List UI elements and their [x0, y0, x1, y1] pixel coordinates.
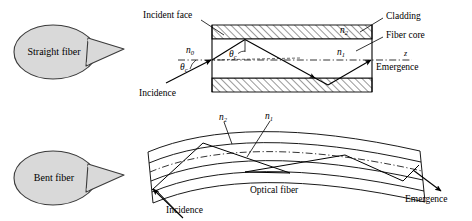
label-theta-critical: θc: [229, 50, 237, 60]
label-n2-cladding: n2: [340, 26, 348, 36]
label-theta-incidence-subscript: c: [185, 66, 188, 73]
label-n0-subscript: 0: [191, 49, 194, 56]
label-theta-incidence: θc: [180, 63, 188, 73]
label-optical-fiber: Optical fiber: [250, 186, 298, 196]
optical-fiber-diagram: Straight fiber Bent fiber Incident face …: [0, 0, 472, 221]
label-axis-z: z: [404, 50, 407, 58]
label-theta-critical-subscript: c: [234, 53, 237, 60]
label-n2-bent: n2: [219, 113, 227, 123]
label-cladding: Cladding: [386, 12, 421, 22]
label-n1-core: n1: [337, 48, 345, 58]
label-n1-bent-subscript: 1: [270, 115, 273, 122]
label-incidence-straight: Incidence: [139, 89, 176, 99]
incidence-ray: [166, 60, 211, 83]
label-n1-subscript: 1: [342, 51, 345, 58]
label-fiber-core: Fiber core: [386, 31, 425, 41]
label-theta-critical-symbol: θ: [229, 49, 234, 59]
label-incident-face: Incident face: [143, 11, 192, 21]
label-incidence-bent: Incidence: [166, 206, 203, 216]
label-theta-incidence-symbol: θ: [180, 62, 185, 72]
label-emergence-bent: Emergence: [405, 195, 448, 205]
label-n1-bent: n1: [265, 112, 273, 122]
label-n0: n0: [186, 46, 194, 56]
label-n2-bent-subscript: 2: [224, 116, 227, 123]
callout-label-bent-fiber: Bent fiber: [19, 173, 89, 183]
callout-label-straight-fiber: Straight fiber: [19, 47, 89, 57]
label-emergence-straight: Emergence: [376, 63, 419, 73]
label-n2-subscript: 2: [345, 29, 348, 36]
bent-emergence-ray: [413, 170, 441, 191]
